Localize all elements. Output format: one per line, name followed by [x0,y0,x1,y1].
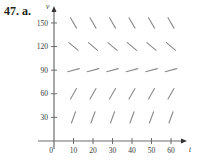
slope-segment [71,18,77,28]
y-tick-label: 90 [41,66,49,75]
slope-segment [147,43,156,51]
slope-segment [130,112,134,123]
slope-segment [108,43,117,51]
slope-segment [165,69,177,72]
slope-segment [126,69,138,72]
slope-segment [149,89,155,99]
origin-label: 0 [49,146,53,155]
slope-segment [110,18,116,28]
slope-segment [107,69,119,72]
x-tick-label: 10 [70,146,78,155]
y-tick-label: 150 [37,19,49,28]
y-tick-label: 60 [41,89,49,98]
slope-segment [127,43,136,51]
direction-field-plot: vt0102030405060306090120150 [0,0,197,160]
slope-segment [90,18,96,28]
x-tick-label: 60 [167,146,175,155]
slope-segment [71,89,77,99]
slope-segment [90,89,96,99]
y-axis-label: v [46,2,50,11]
y-tick-label: 30 [41,113,49,122]
slope-segment [149,18,155,28]
slope-segment [168,18,174,28]
slope-segment [146,69,158,72]
y-tick-label: 120 [37,42,49,51]
slope-segment [91,112,95,123]
slope-segment [169,112,173,123]
x-tick-label: 20 [89,146,97,155]
x-axis-label: t [189,145,192,154]
slope-segment [166,43,175,51]
slope-segment [168,89,174,99]
x-tick-label: 40 [128,146,136,155]
x-tick-label: 50 [148,146,156,155]
slope-segment [149,112,153,123]
slope-segment [110,112,114,123]
slope-segment [129,89,135,99]
x-axis-arrow-icon [181,139,187,144]
slope-segment [68,69,80,72]
x-tick-label: 30 [109,146,117,155]
slope-segment [87,69,99,72]
slope-segment [129,18,135,28]
slope-segment [71,112,75,123]
slope-segment [88,43,97,51]
y-axis-arrow-icon [52,6,57,12]
slope-segment [110,89,116,99]
slope-segment [69,43,78,51]
